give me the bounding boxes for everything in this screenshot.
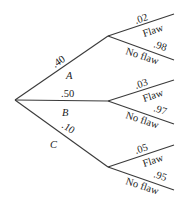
label-A: A xyxy=(65,70,73,81)
probability-tree: .40 A .50 B .10 C .02 Flaw .98 No flaw .… xyxy=(0,0,185,204)
edge-root-B xyxy=(15,100,108,101)
prob-B-noflaw: .97 xyxy=(152,102,168,117)
prob-C-noflaw: .95 xyxy=(152,168,168,183)
prob-A-noflaw: .98 xyxy=(152,38,168,53)
prob-A-flaw: .02 xyxy=(133,11,149,26)
label-A-flaw: Flaw xyxy=(141,22,165,39)
label-B: B xyxy=(62,107,69,118)
prob-B: .50 xyxy=(61,88,74,99)
prob-A: .40 xyxy=(50,53,67,69)
prob-C: .10 xyxy=(60,119,77,135)
label-C: C xyxy=(50,139,58,150)
